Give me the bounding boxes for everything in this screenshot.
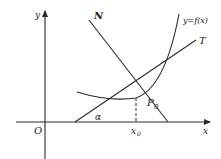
- point-label-subscript: 0: [154, 103, 159, 111]
- curve-label: y=f(x): [182, 16, 208, 25]
- origin-label: O: [34, 125, 42, 136]
- x0-label: x 0: [131, 126, 141, 137]
- x0-label-subscript: 0: [137, 130, 141, 137]
- tangent-label: T: [199, 35, 207, 46]
- y-axis-label: y: [34, 10, 41, 20]
- tangent-normal-diagram: y x O N T y=f(x) P 0 x 0 α: [0, 0, 221, 159]
- angle-alpha-label: α: [95, 112, 101, 122]
- point-label-main: P: [146, 97, 154, 108]
- x0-label-main: x: [131, 126, 136, 136]
- point-label: P 0: [146, 97, 159, 111]
- x-axis-label: x: [203, 126, 208, 136]
- normal-label: N: [93, 10, 104, 21]
